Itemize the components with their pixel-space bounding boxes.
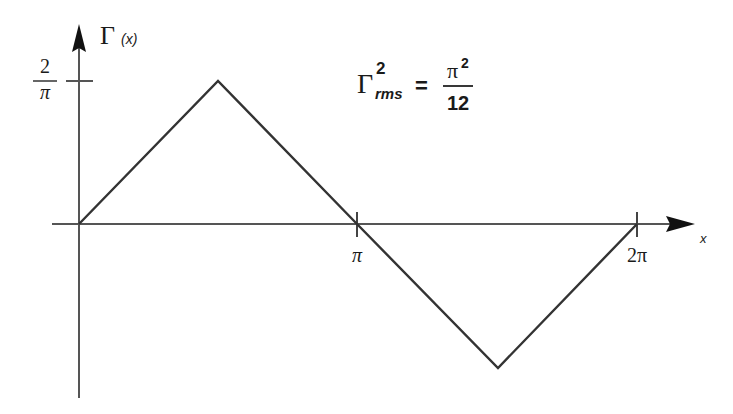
x-axis-arrow-icon	[666, 216, 695, 232]
x-axis-label: x	[699, 231, 707, 246]
y-tick-label-numerator: 2	[40, 55, 50, 77]
y-tick-label-denominator: π	[40, 81, 51, 103]
y-axis-label-arg: (x)	[121, 31, 137, 47]
y-axis-arrow-icon	[72, 24, 86, 52]
formula-equals: =	[415, 73, 428, 98]
formula-lhs-superscript: 2	[376, 59, 385, 78]
formula-rhs-numerator: π	[447, 58, 458, 83]
formula-lhs-subscript: rms	[375, 85, 403, 102]
rms-formula: Γ 2 rms = π 2 12	[357, 55, 473, 114]
x-tick-label-pi: π	[352, 244, 363, 266]
diagram-canvas: Γ (x) 2 π π 2π x Γ 2 rms = π 2 12	[0, 0, 733, 414]
y-axis-label-symbol: Γ	[100, 21, 115, 50]
formula-rhs-denominator: 12	[447, 92, 469, 114]
formula-rhs-numerator-superscript: 2	[461, 55, 469, 71]
diagram-svg: Γ (x) 2 π π 2π x Γ 2 rms = π 2 12	[0, 0, 733, 414]
formula-lhs-symbol: Γ	[357, 68, 373, 99]
x-tick-label-2pi: 2π	[627, 244, 647, 266]
